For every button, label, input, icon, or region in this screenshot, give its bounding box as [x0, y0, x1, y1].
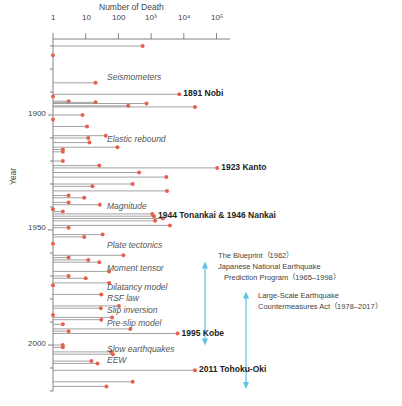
event-dot	[67, 274, 71, 278]
event-dot	[177, 92, 181, 96]
event-dot	[51, 118, 55, 122]
event-dot	[51, 53, 55, 57]
arrow-down-icon	[202, 338, 208, 345]
program-text-line: Prediction Program（1965–1998）	[218, 272, 340, 283]
event-dot	[193, 368, 197, 372]
event-dot	[61, 322, 65, 326]
method-annotation: Dilatancy model	[107, 282, 167, 292]
method-annotation: Seismometers	[107, 72, 161, 82]
event-dot	[131, 182, 135, 186]
event-dot	[67, 256, 71, 260]
event-dot	[121, 253, 125, 257]
event-dot	[168, 223, 172, 227]
event-dot	[89, 359, 93, 363]
event-dot	[141, 44, 145, 48]
earthquake-label: 1891 Nobi	[183, 88, 223, 98]
chart-canvas	[0, 0, 402, 406]
x-tick-1000: 10³	[145, 13, 157, 22]
method-annotation: Plate tectonics	[107, 240, 162, 250]
x-tick-100000: 10⁵	[211, 13, 223, 22]
event-dot	[82, 196, 86, 200]
method-annotation: RSF law	[107, 293, 139, 303]
event-dot	[67, 329, 71, 333]
event-dot	[51, 283, 55, 287]
method-annotation: Magnitude	[107, 201, 147, 211]
program-text-line: The Blueprint（1962）	[218, 250, 340, 261]
event-dot	[90, 184, 94, 188]
event-dot	[153, 219, 157, 223]
earthquake-label: 1995 Kobe	[182, 328, 225, 338]
event-dot	[81, 113, 85, 117]
method-annotation: Elastic rebound	[107, 134, 166, 144]
y-tick-1900: 1900	[28, 109, 46, 118]
x-tick-10: 10	[82, 13, 91, 22]
event-dot	[87, 141, 91, 145]
event-dot	[82, 235, 86, 239]
event-dot	[137, 171, 141, 175]
event-dot	[116, 145, 120, 149]
event-dot	[61, 150, 65, 154]
program-text-line: Japanese National Earthquake	[218, 261, 340, 272]
event-dot	[193, 105, 197, 109]
x-tick-1: 1	[51, 13, 55, 22]
program-text-line: Large-Scale Earthquake	[258, 290, 382, 301]
x-axis-title: Number of Death	[99, 2, 164, 12]
event-dot	[97, 260, 101, 264]
event-dot	[164, 175, 168, 179]
method-annotation: Slip inversion	[107, 305, 158, 315]
arrow-down-icon	[243, 382, 249, 389]
event-dot	[67, 200, 71, 204]
event-dot	[101, 233, 105, 237]
event-dot	[176, 332, 180, 336]
event-dot	[215, 166, 219, 170]
y-tick-1950: 1950	[28, 223, 46, 232]
earthquake-label: 2011 Tohoku-Oki	[199, 364, 266, 374]
event-dot	[61, 210, 65, 214]
event-dot	[51, 95, 55, 99]
event-dot	[51, 313, 55, 317]
method-annotation: EEW	[107, 355, 126, 365]
event-dot	[67, 194, 71, 198]
event-dot	[99, 292, 103, 296]
event-dot	[131, 380, 135, 384]
earthquake-label: 1944 Tonankai & 1946 Nankai	[158, 210, 276, 220]
event-dot	[51, 242, 55, 246]
x-tick-100: 100	[112, 13, 125, 22]
method-annotation: Slow earthquakes	[107, 344, 175, 354]
arrow-up-icon	[243, 291, 249, 298]
event-dot	[67, 226, 71, 230]
program-label-blueprint: The Blueprint（1962）Japanese National Ear…	[218, 250, 340, 283]
event-dot	[97, 164, 101, 168]
event-dot	[85, 125, 89, 129]
program-label-countermeasures: Large-Scale EarthquakeCountermeasures Ac…	[258, 290, 382, 312]
program-text-line: Countermeasures Act（1978–2017）	[258, 301, 382, 312]
event-dot	[61, 345, 65, 349]
x-tick-10000: 10⁴	[178, 13, 190, 22]
event-dot	[96, 361, 100, 365]
event-dot	[61, 159, 65, 163]
event-dot	[99, 318, 103, 322]
event-dot	[145, 102, 149, 106]
event-dot	[165, 189, 169, 193]
method-annotation: Moment tensor	[107, 263, 164, 273]
event-dot	[104, 384, 108, 388]
event-dot	[152, 214, 156, 218]
earthquake-label: 1923 Kanto	[221, 162, 266, 172]
event-dot	[84, 276, 88, 280]
y-axis-title: Year	[8, 168, 18, 185]
event-dot	[98, 203, 102, 207]
event-dot	[86, 136, 90, 140]
event-dot	[99, 306, 103, 310]
y-tick-2000: 2000	[28, 339, 46, 348]
arrow-up-icon	[202, 262, 208, 269]
event-dot	[94, 81, 98, 85]
method-annotation: Pre-slip model	[107, 318, 161, 328]
event-dot	[86, 258, 90, 262]
event-dot	[51, 207, 55, 211]
